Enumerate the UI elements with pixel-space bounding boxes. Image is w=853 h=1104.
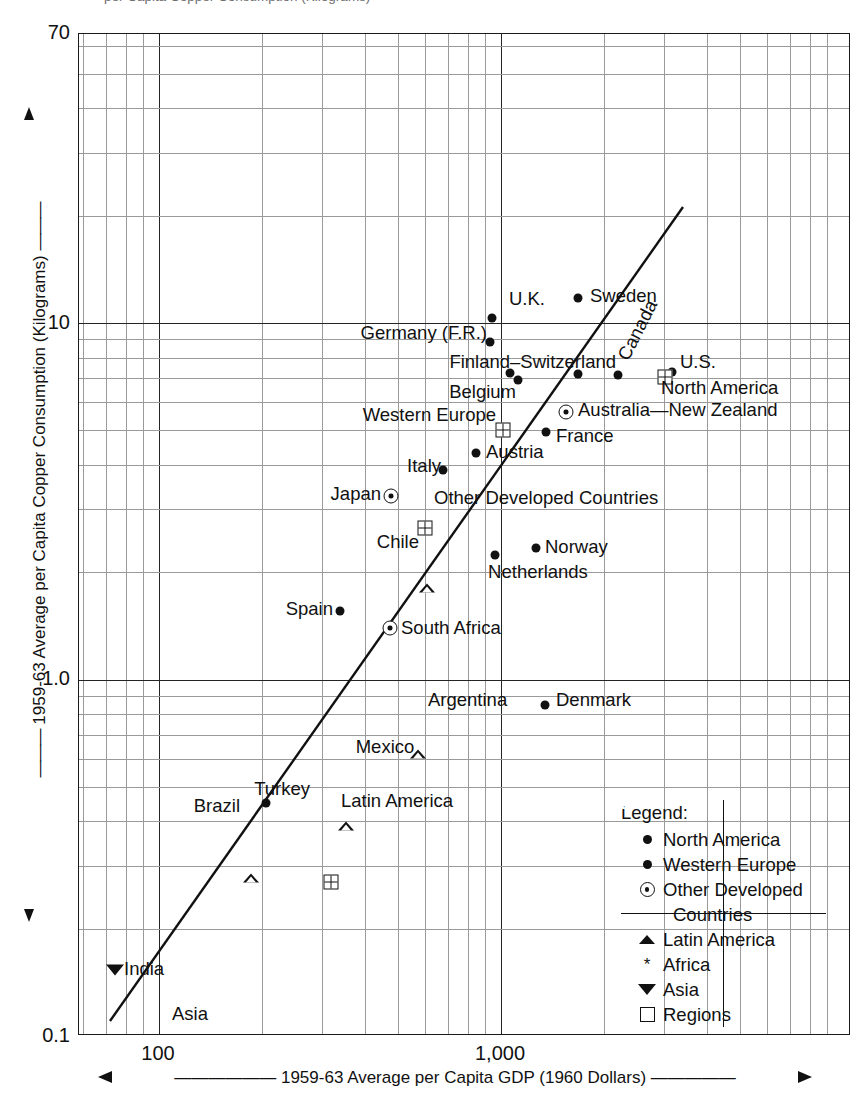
legend-label: Africa bbox=[663, 952, 710, 977]
gridline-vertical bbox=[126, 34, 127, 1034]
x-tick-1000: 1,000 bbox=[455, 1042, 545, 1065]
label-denmark: Denmark bbox=[556, 689, 631, 711]
label-germany: Germany (F.R.) bbox=[361, 322, 487, 344]
label-india: India bbox=[124, 958, 164, 980]
point-australia-new-zealand[interactable] bbox=[559, 405, 574, 420]
down-triangle-icon bbox=[637, 984, 657, 995]
legend: Legend: North America Western Europe Oth… bbox=[621, 800, 826, 1027]
point-chile[interactable] bbox=[419, 584, 435, 593]
gridline-horizontal bbox=[79, 216, 849, 217]
y-tick-70: 70 bbox=[22, 21, 70, 44]
open-triangle-icon bbox=[637, 935, 657, 944]
legend-label: Asia bbox=[663, 977, 699, 1002]
label-finland-switzerland: Finland–Switzerland bbox=[449, 351, 616, 373]
point-austria[interactable] bbox=[472, 449, 481, 458]
gridline-vertical bbox=[365, 34, 366, 1034]
gridline-vertical bbox=[83, 34, 84, 1034]
point-spain[interactable] bbox=[336, 607, 345, 616]
filled-circle-icon bbox=[637, 860, 657, 869]
gridline-vertical bbox=[448, 34, 449, 1034]
point-south-africa[interactable] bbox=[383, 621, 398, 636]
label-france: France bbox=[556, 425, 614, 447]
gridline-vertical bbox=[501, 34, 502, 1034]
label-north-america: North America bbox=[661, 377, 778, 399]
label-turkey: Turkey bbox=[254, 778, 310, 800]
asterisk-icon: * bbox=[637, 960, 657, 970]
point-western-europe-region[interactable] bbox=[496, 423, 511, 438]
legend-label: Western Europe bbox=[663, 852, 796, 877]
point-france[interactable] bbox=[542, 428, 551, 437]
label-italy: Italy bbox=[407, 455, 441, 477]
label-argentina: Argentina bbox=[428, 689, 507, 711]
x-axis-title-text: 1959-63 Average per Capita GDP (1960 Dol… bbox=[281, 1068, 646, 1087]
y-tick-0.1: 0.1 bbox=[12, 1024, 70, 1047]
crossed-square-icon bbox=[637, 1007, 657, 1022]
filled-circle-icon bbox=[637, 835, 657, 844]
gridline-horizontal bbox=[79, 572, 849, 573]
gridline-horizontal bbox=[79, 430, 849, 431]
label-south-africa: South Africa bbox=[401, 617, 501, 639]
label-western-europe: Western Europe bbox=[363, 404, 496, 426]
label-australia-new-zealand: Australia—New Zealand bbox=[578, 399, 777, 421]
label-chile: Chile bbox=[377, 531, 419, 553]
clipped-figure-title: per Capita Copper Consumption (Kilograms… bbox=[104, 0, 764, 5]
point-japan[interactable] bbox=[384, 489, 399, 504]
gridline-horizontal bbox=[79, 714, 849, 715]
label-brazil: Brazil bbox=[194, 795, 240, 817]
gridline-vertical bbox=[485, 34, 486, 1034]
label-asia: Asia bbox=[172, 1003, 208, 1025]
label-belgium: Belgium bbox=[449, 381, 516, 403]
gridline-vertical bbox=[262, 34, 263, 1034]
gridline-vertical bbox=[159, 34, 160, 1034]
y-axis-title: ——— 1959-63 Average per Capita Copper Co… bbox=[30, 120, 50, 860]
gridline-horizontal bbox=[79, 787, 849, 788]
gridline-horizontal bbox=[79, 108, 849, 109]
point-switzerland[interactable] bbox=[574, 370, 583, 379]
x-axis-title: —————— 1959-63 Average per Capita GDP (1… bbox=[90, 1068, 820, 1088]
gridline-vertical bbox=[106, 34, 107, 1034]
legend-label: Other Developed bbox=[663, 877, 803, 902]
gridline-horizontal bbox=[79, 735, 849, 736]
point-netherlands[interactable] bbox=[491, 551, 500, 560]
gridline-vertical bbox=[827, 34, 828, 1034]
gridline-horizontal bbox=[79, 509, 849, 510]
point-norway[interactable] bbox=[532, 544, 541, 553]
legend-label: Regions bbox=[663, 1002, 731, 1027]
label-latin-america: Latin America bbox=[341, 790, 453, 812]
gridline-horizontal bbox=[79, 759, 849, 760]
point-uk[interactable] bbox=[488, 314, 497, 323]
circle-dot-icon bbox=[637, 882, 657, 897]
label-mexico: Mexico bbox=[356, 736, 415, 758]
label-uk: U.K. bbox=[509, 288, 545, 310]
point-brazil[interactable] bbox=[243, 874, 259, 883]
legend-label: North America bbox=[663, 827, 780, 852]
gridline-horizontal bbox=[79, 74, 849, 75]
point-sweden[interactable] bbox=[574, 294, 583, 303]
point-finland[interactable] bbox=[506, 369, 515, 378]
x-tick-100: 100 bbox=[118, 1042, 198, 1065]
point-mexico[interactable] bbox=[338, 822, 354, 831]
point-denmark[interactable] bbox=[541, 701, 550, 710]
gridline-horizontal bbox=[79, 46, 849, 47]
label-austria: Austria bbox=[486, 441, 544, 463]
label-netherlands: Netherlands bbox=[488, 561, 588, 583]
point-canada[interactable] bbox=[614, 371, 623, 380]
legend-item-regions: Regions bbox=[621, 1002, 826, 1027]
point-latin-america-region[interactable] bbox=[324, 875, 339, 890]
legend-label: Latin America bbox=[663, 927, 775, 952]
gridline-horizontal bbox=[79, 680, 849, 681]
gridline-vertical bbox=[604, 34, 605, 1034]
gridline-vertical bbox=[468, 34, 469, 1034]
gridline-vertical bbox=[143, 34, 144, 1034]
label-other-developed-countries: Other Developed Countries bbox=[434, 487, 658, 509]
label-us: U.S. bbox=[680, 351, 716, 373]
point-india[interactable] bbox=[106, 965, 124, 976]
gridline-horizontal bbox=[79, 465, 849, 466]
gridline-horizontal bbox=[79, 153, 849, 154]
label-spain: Spain bbox=[286, 598, 333, 620]
label-japan: Japan bbox=[331, 483, 381, 505]
y-axis-title-text: 1959-63 Average per Capita Copper Consum… bbox=[30, 255, 49, 724]
chart-canvas: per Capita Copper Consumption (Kilograms… bbox=[0, 0, 853, 1104]
point-other-developed-region[interactable] bbox=[418, 521, 433, 536]
label-norway: Norway bbox=[545, 536, 608, 558]
